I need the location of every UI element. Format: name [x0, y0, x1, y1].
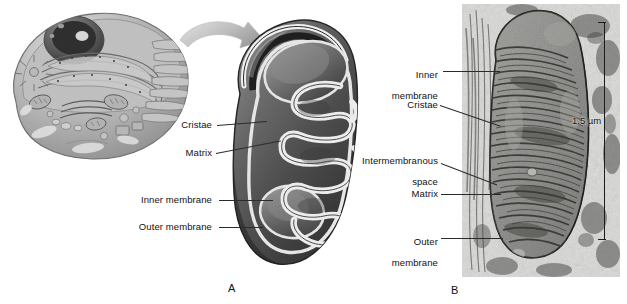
label-intermembranous-space-b-line2: space: [412, 176, 438, 187]
leader-line-inner-membrane-a: [219, 200, 273, 201]
scale-bar-tick-top: [598, 22, 606, 23]
label-outer-membrane-b: Outer membrane: [340, 226, 438, 279]
label-inner-membrane-a: Inner membrane: [100, 195, 212, 206]
leader-line-outer-membrane-b: [441, 238, 503, 239]
label-outer-membrane-b-line2: membrane: [392, 257, 438, 268]
mitochondrion-micrograph: [462, 4, 620, 277]
label-matrix-b: Matrix: [340, 189, 438, 200]
scale-bar-line: [604, 22, 605, 240]
label-outer-membrane-b-line1: Outer: [414, 236, 438, 247]
panel-letter-b: B: [451, 284, 458, 296]
scale-bar-label: 1.5 µm: [572, 115, 601, 126]
label-cristae-a: Cristae: [120, 120, 212, 131]
label-matrix-a: Matrix: [120, 148, 212, 159]
label-outer-membrane-a: Outer membrane: [100, 222, 212, 233]
figure-mitochondrion: Cristae Matrix Inner membrane Outer memb…: [0, 0, 627, 304]
label-intermembranous-space-b-line1: Intermembranous: [362, 155, 438, 166]
leader-line-inner-membrane-b: [443, 71, 500, 72]
leader-line-outer-membrane-a: [219, 227, 263, 228]
leader-line-matrix-b: [441, 194, 501, 195]
label-inner-membrane-b-line1: Inner: [416, 69, 438, 80]
panel-letter-a: A: [228, 282, 235, 294]
scale-bar-tick-bottom: [598, 239, 606, 240]
label-cristae-b: Cristae: [340, 100, 438, 111]
